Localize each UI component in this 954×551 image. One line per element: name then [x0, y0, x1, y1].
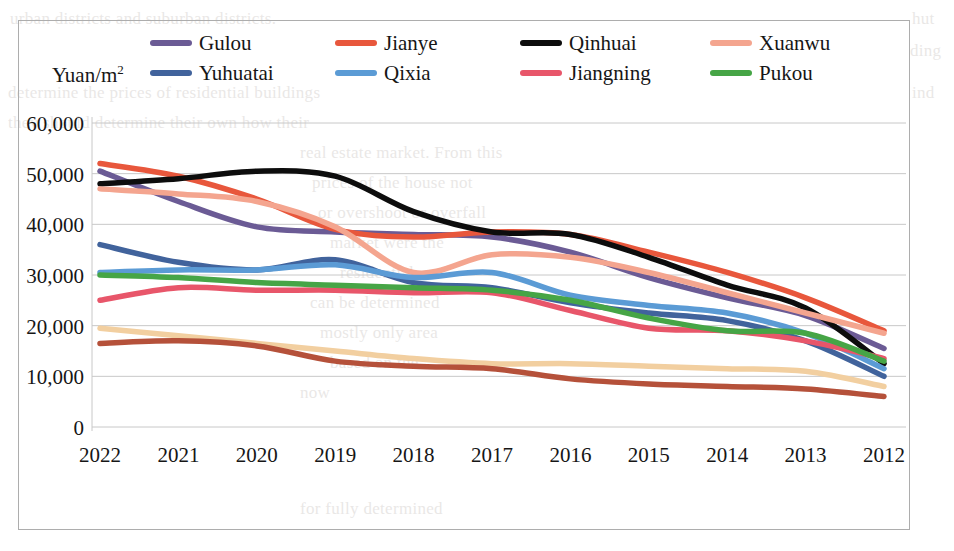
legend-item-label: Qixia [384, 61, 431, 86]
y-axis-tick-label: 50,000 [26, 163, 84, 187]
x-axis-tick-label: 2020 [236, 443, 278, 467]
x-axis-tick-label: 2016 [549, 443, 591, 467]
x-axis-tick-label: 2021 [157, 443, 199, 467]
y-axis-tick-label: 10,000 [26, 365, 84, 389]
legend-item-pukou[interactable]: Pukou [710, 61, 870, 86]
y-axis-title: Yuan/m2 [52, 62, 124, 88]
y-axis-title-text: Yuan/m [52, 63, 117, 87]
legend-item-label: Yuhuatai [199, 61, 274, 86]
x-axis-tick-label: 2017 [471, 443, 513, 467]
legend-item-qixia[interactable]: Qixia [335, 61, 520, 86]
x-axis-tick-label: 2012 [863, 443, 905, 467]
legend-swatch-icon [520, 70, 562, 76]
legend-item-gulou[interactable]: Gulou [150, 31, 335, 56]
legend-swatch-icon [335, 70, 377, 76]
legend-item-label: Jiangning [569, 61, 651, 86]
legend-item-jianye[interactable]: Jianye [335, 31, 520, 56]
x-axis-tick-label: 2015 [628, 443, 670, 467]
legend-swatch-icon [710, 70, 752, 76]
y-axis-tick-label: 30,000 [26, 264, 84, 288]
legend-item-yuhuatai[interactable]: Yuhuatai [150, 61, 335, 86]
legend-item-qinhuai[interactable]: Qinhuai [520, 31, 710, 56]
legend-item-label: Jianye [384, 31, 438, 56]
legend-item-label: Qinhuai [569, 31, 637, 56]
legend-item-label: Xuanwu [759, 31, 830, 56]
y-axis-tick-label: 40,000 [26, 213, 84, 237]
y-axis-title-superscript: 2 [117, 62, 124, 77]
chart-legend: GulouJianyeQinhuaiXuanwuYuhuataiQixiaJia… [150, 28, 870, 88]
series-line-xuanwu [100, 189, 884, 333]
x-axis-tick-label: 2013 [785, 443, 827, 467]
x-axis-tick-label: 2014 [706, 443, 749, 467]
legend-item-label: Gulou [199, 31, 252, 56]
legend-item-jiangning[interactable]: Jiangning [520, 61, 710, 86]
legend-item-xuanwu[interactable]: Xuanwu [710, 31, 870, 56]
legend-swatch-icon [150, 40, 192, 46]
legend-swatch-icon [150, 70, 192, 76]
y-axis-tick-label: 60,000 [26, 112, 84, 136]
x-axis-tick-label: 2019 [314, 443, 356, 467]
y-axis-tick-label: 20,000 [26, 315, 84, 339]
x-axis-tick-label: 2018 [393, 443, 435, 467]
legend-swatch-icon [710, 40, 752, 46]
legend-swatch-icon [335, 40, 377, 46]
x-axis-tick-label: 2022 [79, 443, 121, 467]
series-line-yuhuatai [100, 245, 884, 377]
legend-item-label: Pukou [759, 61, 813, 86]
legend-swatch-icon [520, 40, 562, 46]
y-axis-tick-label: 0 [74, 416, 85, 440]
